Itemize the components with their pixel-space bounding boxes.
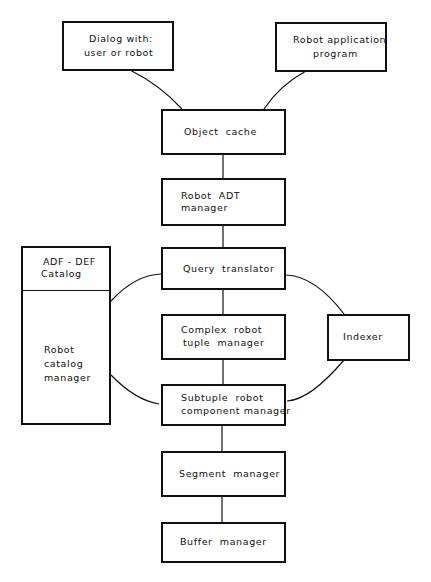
query-label: Query translator xyxy=(183,263,274,275)
indexer-label: Indexer xyxy=(343,331,383,343)
catalog-label-3: Robot xyxy=(44,344,75,356)
buffer-manager-box: Buffer manager xyxy=(161,522,286,563)
app-label-1: Robot application xyxy=(293,34,386,46)
app-label-2: program xyxy=(313,48,358,60)
subtuple-component-manager-box: Subtuple robot component manager xyxy=(161,384,286,426)
subtuple-label-2: component manager xyxy=(181,405,291,417)
complex-tuple-manager-box: Complex robot tuple manager xyxy=(161,314,286,360)
catalog-divider xyxy=(23,290,109,291)
catalog-label-5: manager xyxy=(44,372,91,384)
buffer-label: Buffer manager xyxy=(180,536,267,548)
object-cache-box: Object cache xyxy=(161,109,286,155)
catalog-label-4: catalog xyxy=(44,358,83,370)
complex-label-1: Complex robot xyxy=(181,324,262,336)
dialog-box: Dialog with: user or robot xyxy=(62,21,174,71)
dialog-label-1: Dialog with: xyxy=(89,33,153,45)
segment-label: Segment manager xyxy=(179,468,280,480)
catalog-label-1: ADF - DEF xyxy=(43,256,96,268)
adt-label-1: Robot ADT xyxy=(181,190,240,202)
dialog-label-2: user or robot xyxy=(84,47,153,59)
adt-label-2: manager xyxy=(181,202,228,214)
object-cache-label: Object cache xyxy=(184,126,257,138)
complex-label-2: tuple manager xyxy=(183,337,264,349)
query-translator-box: Query translator xyxy=(161,247,286,290)
robot-application-box: Robot application program xyxy=(275,22,387,72)
catalog-label-2: Catalog xyxy=(41,268,82,280)
robot-catalog-manager-box: ADF - DEF Catalog Robot catalog manager xyxy=(21,246,111,425)
segment-manager-box: Segment manager xyxy=(161,451,286,497)
robot-adt-manager-box: Robot ADT manager xyxy=(161,178,286,226)
subtuple-label-1: Subtuple robot xyxy=(181,392,263,404)
indexer-box: Indexer xyxy=(327,314,410,361)
